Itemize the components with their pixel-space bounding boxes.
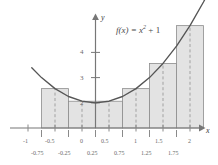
- y-tick-label-4: 4: [80, 48, 84, 56]
- y-tick-label-2: 2: [80, 99, 84, 107]
- x-tick-label-1: 1: [134, 138, 137, 144]
- x-axis-label: x: [206, 126, 210, 135]
- x-tick-label-neg1: -1: [23, 138, 28, 144]
- x-tick-label-1-5: 1.5: [155, 138, 163, 144]
- function-tail: + 1: [146, 25, 160, 35]
- x-tick-label-1-75: 1.75: [168, 150, 179, 156]
- x-tick-label-0-75: 0.75: [114, 150, 125, 156]
- y-tick-label-3: 3: [80, 74, 84, 82]
- function-label-text: f(x) = x: [116, 25, 143, 35]
- y-axis-label: y: [101, 13, 105, 22]
- x-tick-label-0: 0: [80, 138, 83, 144]
- x-tick-label-neg0-25: -0.25: [58, 150, 71, 156]
- x-tick-label-2: 2: [188, 138, 191, 144]
- x-tick-label-0-5: 0.5: [101, 138, 109, 144]
- figure-container: f(x) = x2 + 1 y x 2 3 4 -1 -0.5 0 0.5 1 …: [0, 0, 218, 165]
- x-tick-label-neg0-5: -0.5: [45, 138, 55, 144]
- x-tick-label-1-25: 1.25: [141, 150, 152, 156]
- riemann-sum-plot: [0, 0, 218, 165]
- x-tick-label-0-25: 0.25: [87, 150, 98, 156]
- x-tick-label-neg0-75: -0.75: [31, 150, 44, 156]
- function-annotation: f(x) = x2 + 1: [116, 24, 160, 35]
- y-axis-arrow: [92, 14, 99, 21]
